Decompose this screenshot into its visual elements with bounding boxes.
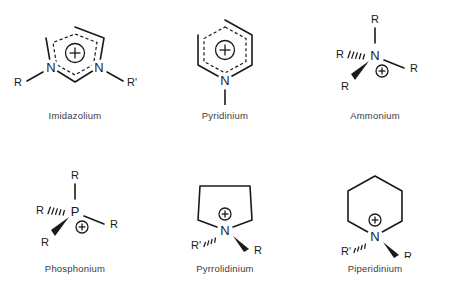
caption-ammonium: Ammonium <box>350 111 400 121</box>
caption-imidazolium: Imidazolium <box>49 111 102 121</box>
structure-cell-ammonium: N R R R R A <box>300 0 450 154</box>
atom-label-nitrogen-right: N <box>94 60 103 75</box>
substituent-label-r-right: R <box>410 62 418 74</box>
pyrrolidinium-structure-diagram: N R' R <box>150 168 300 258</box>
substituent-label-r-left: R <box>36 204 44 216</box>
bond-n-to-rprime-hashed <box>354 243 366 253</box>
atom-label-nitrogen-left: N <box>46 60 55 75</box>
caption-phosphonium: Phosphonium <box>45 264 105 274</box>
phosphonium-structure-diagram: P R R R R <box>0 168 150 258</box>
bond-p-to-r-left-hashed <box>48 206 65 215</box>
substituent-label-r-right: R <box>110 218 118 230</box>
imidazolium-charge <box>66 44 85 63</box>
substituent-label-r: R <box>404 250 412 258</box>
bond-n-to-r-lower-left-wedge <box>351 61 369 80</box>
piperidinium-charge <box>369 214 381 226</box>
caption-pyrrolidinium: Pyrrolidinium <box>196 264 254 274</box>
bond-n1-to-r <box>27 72 43 81</box>
piperidinium-ring-outline <box>348 176 402 236</box>
ammonium-structure-diagram: N R R R R <box>300 10 450 105</box>
atom-label-nitrogen: N <box>370 48 379 63</box>
caption-piperidinium: Piperidinium <box>348 264 403 274</box>
imidazolium-structure-diagram: N N R R' <box>0 10 150 105</box>
structure-cell-pyridinium: N R Pyridinium <box>150 0 300 154</box>
structure-cell-pyrrolidinium: N R' R Pyrrolidinium <box>150 154 300 307</box>
piperidinium-structure-diagram: N R' R <box>300 168 450 258</box>
structure-cell-piperidinium: N R' R Piperidinium <box>300 154 450 307</box>
bond-n-to-r-wedge <box>233 236 249 252</box>
phosphonium-charge <box>76 221 88 233</box>
substituent-label-r-prime: R' <box>341 245 351 257</box>
substituent-label-r-prime: R' <box>127 76 137 88</box>
substituent-label-r: R <box>254 244 262 256</box>
structure-cell-imidazolium: N N R R' Imidazolium <box>0 0 150 154</box>
substituent-label-r-left: R <box>336 48 344 60</box>
bond-n-to-r-left-hashed <box>348 51 365 60</box>
substituent-label-r-lower-left: R <box>341 80 349 92</box>
pyridinium-charge <box>216 41 235 60</box>
pyridinium-structure-diagram: N R <box>150 10 300 105</box>
substituent-label-r-prime: R' <box>191 239 201 251</box>
pyrrolidinium-charge <box>219 208 231 220</box>
cation-structures-grid: N N R R' Imidazolium N R Pyridini <box>0 0 450 307</box>
atom-label-phosphorus: P <box>71 204 80 219</box>
substituent-label-r-lower-left: R <box>41 236 49 248</box>
bond-n-to-r-wedge <box>383 242 399 258</box>
bond-p-to-r-lower-left-wedge <box>51 217 69 236</box>
atom-label-nitrogen: N <box>220 223 229 238</box>
caption-pyridinium: Pyridinium <box>202 111 248 121</box>
atom-label-nitrogen: N <box>370 229 379 244</box>
structure-cell-phosphonium: P R R R R Phosphonium <box>0 154 150 307</box>
substituent-label-r-top: R <box>371 13 379 25</box>
bond-n3-to-rprime <box>107 72 123 81</box>
substituent-label-r: R <box>14 76 22 88</box>
substituent-label-r-top: R <box>71 169 79 181</box>
atom-label-nitrogen: N <box>220 73 229 88</box>
ammonium-charge <box>376 65 388 77</box>
bond-n-to-rprime-hashed <box>204 237 216 247</box>
